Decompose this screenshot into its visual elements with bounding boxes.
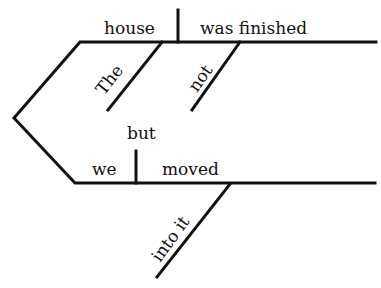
subject-house: house [104,18,155,38]
predicate-moved: moved [162,159,219,179]
sentence-diagram: house was finished The not but we moved … [0,0,381,288]
subject-we: we [92,159,117,179]
predicate-was-finished: was finished [200,18,307,38]
conjunction-but: but [127,123,156,143]
modifier-not: not [184,61,217,96]
